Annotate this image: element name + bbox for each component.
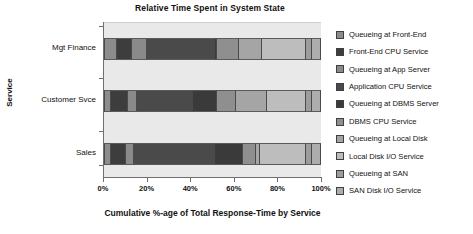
- legend-swatch-icon: [336, 48, 344, 56]
- bar-segment: [111, 90, 128, 112]
- plot-area: [103, 22, 321, 177]
- x-tick-label: 100%: [311, 184, 330, 193]
- x-tick-mark: [234, 177, 235, 182]
- legend-swatch-icon: [336, 152, 344, 160]
- bar-segment: [147, 38, 214, 60]
- bar-segment: [243, 143, 256, 165]
- bar-segment: [104, 38, 117, 60]
- legend-swatch-icon: [336, 65, 344, 73]
- bar-segment: [236, 90, 266, 112]
- legend-label: Queueing at SAN: [349, 170, 408, 178]
- y-axis-title: Service: [5, 63, 14, 123]
- bar-row: [104, 38, 321, 60]
- bar-segment: [193, 90, 217, 112]
- bar-segment: [217, 90, 237, 112]
- bar-segment: [134, 143, 214, 165]
- bar-segment: [132, 38, 147, 60]
- legend-label: Application CPU Service: [349, 83, 432, 91]
- plot-top-border: [104, 22, 321, 23]
- legend-label: DBMS CPU Service: [349, 118, 417, 126]
- legend-swatch-icon: [336, 170, 344, 178]
- y-category-label: Customer Svce: [0, 95, 96, 104]
- x-axis-line: [103, 177, 321, 178]
- x-tick-label: 0%: [98, 184, 109, 193]
- y-category-label: Mgt Finance: [0, 43, 96, 52]
- x-tick-mark: [103, 177, 104, 182]
- legend-item[interactable]: Queueing at Front-End: [336, 26, 470, 43]
- bar-segment: [217, 38, 239, 60]
- y-tick-mark: [99, 78, 103, 79]
- x-tick-label: 20%: [139, 184, 154, 193]
- legend-label: Front-End CPU Service: [349, 48, 428, 56]
- legend-label: SAN Disk I/O Service: [349, 187, 421, 195]
- y-tick-mark: [99, 26, 103, 27]
- bar-segment: [312, 90, 321, 112]
- bar-segment: [128, 90, 137, 112]
- legend-label: Queueing at Local Disk: [349, 135, 428, 143]
- bar-segment: [312, 38, 321, 60]
- x-tick-label: 40%: [183, 184, 198, 193]
- legend-item[interactable]: Queueing at DBMS Server: [336, 96, 470, 113]
- bar-segment: [260, 143, 306, 165]
- bar-segment: [312, 143, 321, 165]
- y-tick-mark: [99, 131, 103, 132]
- bar-segment: [117, 38, 132, 60]
- chart-title: Relative Time Spent in System State: [95, 3, 325, 13]
- y-category-label: Sales: [0, 148, 96, 157]
- bar-segment: [267, 90, 306, 112]
- x-tick-mark: [190, 177, 191, 182]
- legend-item[interactable]: Queueing at Local Disk: [336, 130, 470, 147]
- legend-item[interactable]: Application CPU Service: [336, 78, 470, 95]
- legend-item[interactable]: Front-End CPU Service: [336, 43, 470, 60]
- x-axis-title: Cumulative %-age of Total Response-Time …: [35, 208, 390, 218]
- legend-label: Queueing at App Server: [349, 66, 430, 74]
- legend-swatch-icon: [336, 187, 344, 195]
- chart-container: Relative Time Spent in System State 0%20…: [0, 0, 473, 234]
- x-tick-label: 80%: [270, 184, 285, 193]
- bar-row: [104, 143, 321, 165]
- legend: Queueing at Front-EndFront-End CPU Servi…: [336, 26, 470, 200]
- legend-label: Local Disk I/O Service: [349, 153, 424, 161]
- bar-segment: [262, 38, 305, 60]
- legend-swatch-icon: [336, 135, 344, 143]
- legend-item[interactable]: DBMS CPU Service: [336, 113, 470, 130]
- legend-swatch-icon: [336, 31, 344, 39]
- legend-label: Queueing at DBMS Server: [349, 100, 439, 108]
- y-tick-mark: [99, 165, 103, 166]
- legend-item[interactable]: Local Disk I/O Service: [336, 148, 470, 165]
- x-tick-mark: [277, 177, 278, 182]
- bar-segment: [215, 143, 243, 165]
- legend-swatch-icon: [336, 83, 344, 91]
- bar-segment: [137, 90, 193, 112]
- legend-item[interactable]: SAN Disk I/O Service: [336, 183, 470, 200]
- x-tick-mark: [321, 177, 322, 182]
- legend-item[interactable]: Queueing at SAN: [336, 165, 470, 182]
- bar-segment: [239, 38, 263, 60]
- bar-segment: [111, 143, 126, 165]
- bar-segment: [126, 143, 135, 165]
- legend-label: Queueing at Front-End: [349, 31, 426, 39]
- legend-swatch-icon: [336, 118, 344, 126]
- legend-item[interactable]: Queueing at App Server: [336, 61, 470, 78]
- bar-row: [104, 90, 321, 112]
- x-tick-label: 60%: [226, 184, 241, 193]
- x-tick-mark: [147, 177, 148, 182]
- legend-swatch-icon: [336, 100, 344, 108]
